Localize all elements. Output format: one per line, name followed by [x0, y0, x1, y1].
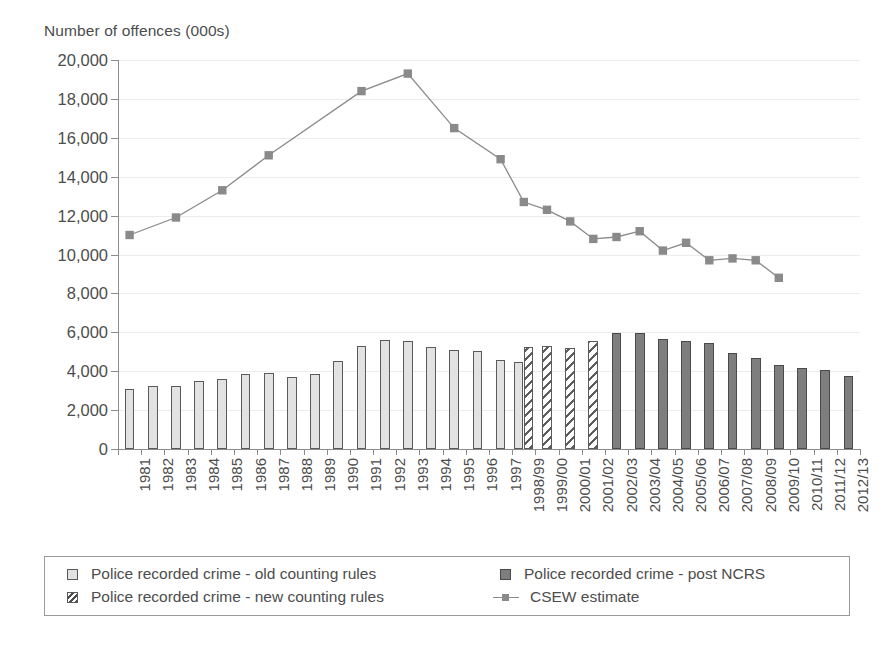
x-axis-tick-label: 2012/13	[854, 458, 871, 512]
csew-marker	[612, 233, 620, 241]
csew-marker	[705, 256, 713, 264]
csew-marker	[404, 69, 412, 77]
x-axis-tick-label: 1996	[483, 458, 500, 491]
x-axis-tick-label: 1985	[228, 458, 245, 491]
x-axis-tick-label: 1987	[275, 458, 292, 491]
x-axis-tick-label: 1992	[391, 458, 408, 491]
y-tick-mark	[111, 216, 118, 217]
line-marker-swatch-icon	[493, 592, 519, 603]
x-tick-mark	[651, 449, 652, 455]
x-axis-tick-label: 2010/11	[808, 458, 825, 511]
y-tick-mark	[111, 99, 118, 100]
x-tick-mark	[373, 449, 374, 455]
csew-marker	[125, 231, 133, 239]
x-tick-mark	[814, 449, 815, 455]
x-axis-tick-label: 1983	[182, 458, 199, 491]
y-axis-tick-label: 2,000	[8, 401, 108, 420]
csew-marker	[450, 124, 458, 132]
x-axis-tick-label: 1998/99	[530, 458, 547, 512]
y-axis-labels: 20,00018,00016,00014,00012,00010,0008,00…	[4, 0, 108, 645]
square-hatched-swatch-icon	[67, 592, 78, 603]
x-axis-tick-label: 1990	[344, 458, 361, 491]
csew-marker	[775, 274, 783, 282]
legend-label-new-rules: Police recorded crime - new counting rul…	[91, 588, 384, 606]
y-tick-mark	[111, 293, 118, 294]
x-tick-mark	[512, 449, 513, 455]
x-tick-mark	[675, 449, 676, 455]
square-dark-swatch-icon	[500, 569, 511, 580]
x-axis-tick-label: 2011/12	[831, 458, 848, 511]
y-tick-mark	[111, 177, 118, 178]
x-axis-tick-label: 1991	[367, 458, 384, 491]
y-axis-tick-label: 20,000	[8, 51, 108, 70]
x-tick-mark	[744, 449, 745, 455]
x-tick-mark	[721, 449, 722, 455]
x-axis-tick-label: 2000/01	[576, 458, 593, 512]
x-axis-tick-label: 2005/06	[692, 458, 709, 512]
x-axis-tick-label: 2008/09	[762, 458, 779, 512]
x-tick-mark	[419, 449, 420, 455]
x-tick-mark	[605, 449, 606, 455]
x-tick-mark	[188, 449, 189, 455]
legend-label-post-ncrs: Police recorded crime - post NCRS	[524, 565, 765, 583]
csew-line-series	[118, 60, 860, 449]
csew-marker	[172, 213, 180, 221]
x-tick-mark	[280, 449, 281, 455]
x-tick-mark	[489, 449, 490, 455]
x-tick-mark	[234, 449, 235, 455]
legend-item-csew[interactable]: CSEW estimate	[493, 588, 639, 606]
x-axis-tick-label: 1997	[507, 458, 524, 491]
x-tick-mark	[327, 449, 328, 455]
y-tick-mark	[111, 138, 118, 139]
y-axis-tick-label: 8,000	[8, 284, 108, 303]
csew-marker	[659, 246, 667, 254]
y-axis-tick-label: 6,000	[8, 323, 108, 342]
y-axis-tick-label: 4,000	[8, 362, 108, 381]
x-tick-mark	[790, 449, 791, 455]
x-axis-tick-label: 1999/00	[553, 458, 570, 512]
x-axis-tick-label: 2004/05	[669, 458, 686, 512]
x-tick-mark	[582, 449, 583, 455]
legend-item-new-rules[interactable]: Police recorded crime - new counting rul…	[67, 588, 384, 606]
y-tick-mark	[111, 332, 118, 333]
x-axis-tick-label: 2006/07	[715, 458, 732, 512]
csew-marker	[682, 239, 690, 247]
x-tick-mark	[860, 449, 861, 455]
x-axis-tick-label: 1994	[437, 458, 454, 491]
x-axis-tick-label: 1993	[414, 458, 431, 491]
x-tick-mark	[304, 449, 305, 455]
csew-marker	[218, 186, 226, 194]
csew-marker	[636, 227, 644, 235]
csew-polyline	[130, 74, 779, 278]
csew-marker	[543, 206, 551, 214]
y-axis-tick-label: 10,000	[8, 245, 108, 264]
csew-marker	[496, 155, 504, 163]
csew-marker	[728, 254, 736, 262]
x-tick-mark	[767, 449, 768, 455]
x-tick-mark	[350, 449, 351, 455]
csew-marker	[752, 256, 760, 264]
x-axis-tick-label: 2009/10	[785, 458, 802, 512]
x-axis-tick-label: 1986	[252, 458, 269, 491]
y-tick-mark	[111, 60, 118, 61]
y-tick-mark	[111, 410, 118, 411]
x-tick-mark	[396, 449, 397, 455]
x-axis-tick-label: 2001/02	[599, 458, 616, 512]
x-tick-mark	[257, 449, 258, 455]
x-axis-tick-label: 1981	[136, 458, 153, 491]
x-axis-tick-label: 2002/03	[623, 458, 640, 512]
chart-plot-area: 20,00018,00016,00014,00012,00010,0008,00…	[0, 0, 893, 645]
x-tick-mark	[211, 449, 212, 455]
chart-legend: Police recorded crime - old counting rul…	[44, 556, 850, 616]
legend-item-old-rules[interactable]: Police recorded crime - old counting rul…	[67, 565, 376, 583]
y-tick-mark	[111, 449, 118, 450]
x-tick-mark	[628, 449, 629, 455]
legend-label-csew: CSEW estimate	[530, 588, 639, 606]
y-axis-tick-label: 0	[8, 440, 108, 459]
legend-item-post-ncrs[interactable]: Police recorded crime - post NCRS	[500, 565, 765, 583]
y-axis-tick-label: 16,000	[8, 128, 108, 147]
x-axis-tick-label: 2003/04	[646, 458, 663, 512]
x-tick-mark	[559, 449, 560, 455]
x-axis-tick-label: 1988	[298, 458, 315, 491]
x-axis-tick-label: 1984	[205, 458, 222, 491]
